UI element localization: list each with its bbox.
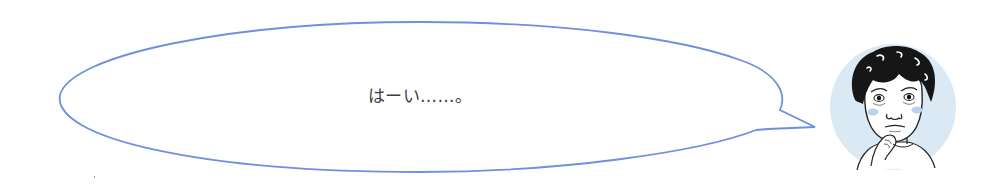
speech-scene: はーい……。 [0,0,998,189]
person-thinking-icon [827,40,961,174]
speech-bubble-text: はーい……。 [300,84,540,108]
print-speck [94,176,95,178]
